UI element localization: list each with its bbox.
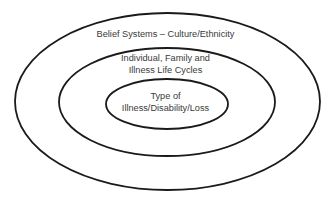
outer-layer-label-line-1: Belief Systems – Culture/Ethnicity [0, 28, 331, 40]
outer-layer-label: Belief Systems – Culture/Ethnicity [0, 28, 331, 40]
inner-layer-label-line-1: Type of [0, 90, 331, 102]
middle-layer-label-line-2: Illness Life Cycles [0, 64, 331, 76]
middle-layer-label-line-1: Individual, Family and [0, 52, 331, 64]
inner-layer-label-line-2: Illness/Disability/Loss [0, 102, 331, 114]
inner-layer-label: Type of Illness/Disability/Loss [0, 90, 331, 114]
middle-layer-label: Individual, Family and Illness Life Cycl… [0, 52, 331, 76]
